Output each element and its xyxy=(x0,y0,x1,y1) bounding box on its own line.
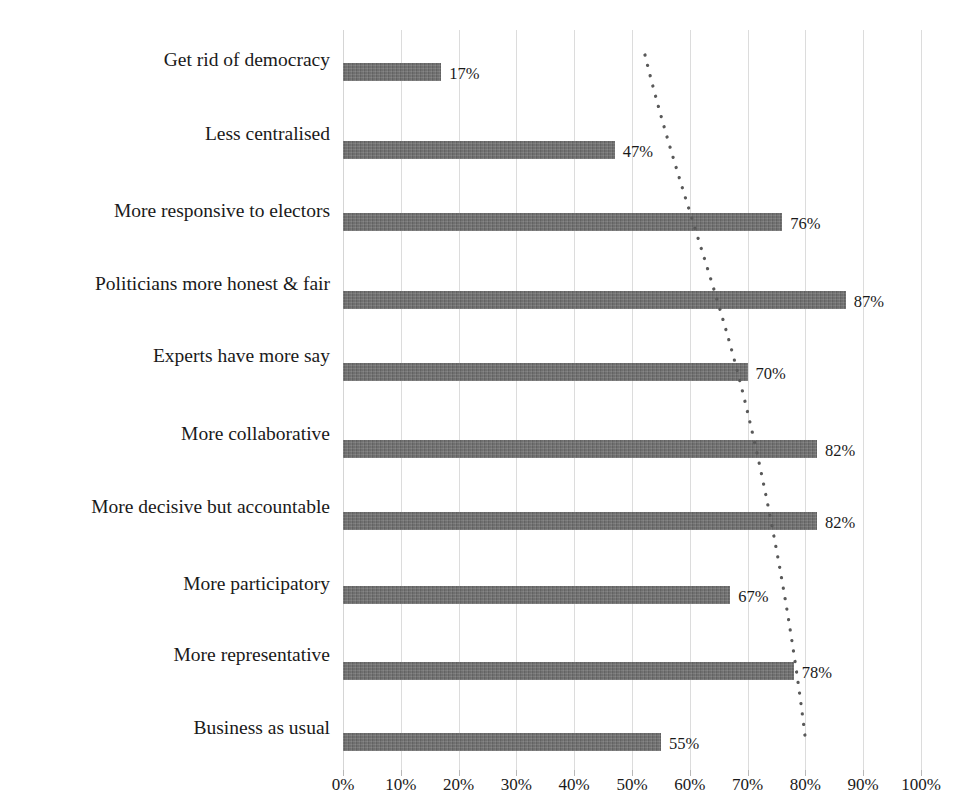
bar-value-label: 55% xyxy=(669,734,699,753)
category-label: More collaborative xyxy=(0,422,330,446)
bar-value-label: 17% xyxy=(449,64,479,83)
category-label: More responsive to electors xyxy=(0,199,330,223)
gridline-90% xyxy=(863,30,864,770)
gridline-70% xyxy=(748,30,749,770)
bar-value-label: 47% xyxy=(623,142,653,161)
category-label: More participatory xyxy=(0,572,330,596)
bar xyxy=(343,662,794,680)
category-label: Less centralised xyxy=(0,122,330,146)
category-label: Get rid of democracy xyxy=(0,48,330,72)
bar-value-label: 78% xyxy=(802,663,832,682)
bar xyxy=(343,291,846,309)
bar xyxy=(343,733,661,751)
bar-value-label: 82% xyxy=(825,513,855,532)
gridline-100% xyxy=(921,30,922,770)
bar-value-label: 87% xyxy=(854,292,884,311)
bar xyxy=(343,440,817,458)
bar-value-label: 76% xyxy=(790,214,820,233)
bar xyxy=(343,213,782,231)
category-label: Politicians more honest & fair xyxy=(0,272,330,296)
category-label: More decisive but accountable xyxy=(0,495,330,519)
bar xyxy=(343,586,730,604)
category-label: More representative xyxy=(0,643,330,667)
bar xyxy=(343,363,748,381)
gridline-50% xyxy=(632,30,633,770)
bar-value-label: 70% xyxy=(756,364,786,383)
bar-chart: Get rid of democracyLess centralisedMore… xyxy=(0,0,953,810)
x-tick-label-100%: 100% xyxy=(886,775,953,795)
category-label: Business as usual xyxy=(0,716,330,740)
gridline-80% xyxy=(805,30,806,770)
bar xyxy=(343,141,615,159)
gridline-60% xyxy=(690,30,691,770)
bar-value-label: 82% xyxy=(825,441,855,460)
bar xyxy=(343,63,441,81)
category-label: Experts have more say xyxy=(0,344,330,368)
bar xyxy=(343,512,817,530)
bar-value-label: 67% xyxy=(738,587,768,606)
